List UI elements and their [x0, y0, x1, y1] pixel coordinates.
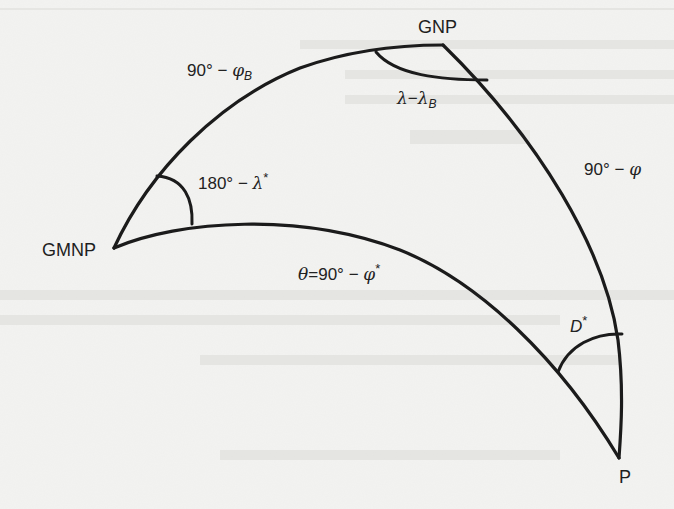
angle-label-gmnp: 180° − λ*: [198, 175, 268, 192]
angle-arc-gnp: [376, 52, 487, 80]
angle-arc-gmnp: [157, 176, 192, 224]
edge-label-op: −: [614, 160, 624, 179]
edge-label-sub: B: [244, 69, 252, 83]
diagram-canvas: GNP GMNP P 90° − φB 90° − φ θ=90° − φ* λ…: [0, 0, 674, 509]
edge-gnp-p: [443, 45, 622, 458]
angle-label-gnp: λ−λB: [397, 90, 437, 107]
lambda-symbol: λ: [397, 88, 408, 108]
angle-label-sup: *: [582, 313, 587, 328]
lambda-symbol: λ: [418, 88, 429, 108]
vertex-label-gnp: GNP: [418, 18, 457, 36]
edge-label-op: −: [349, 265, 359, 284]
angle-label-op: −: [238, 174, 248, 193]
phi-symbol: φ: [232, 60, 244, 80]
phi-symbol: φ: [363, 264, 375, 284]
edge-label-op: −: [217, 61, 227, 80]
phi-symbol: φ: [629, 159, 641, 179]
vertex-label-gmnp: GMNP: [42, 241, 96, 259]
edge-gmnp-gnp: [114, 45, 443, 248]
declination-symbol: D: [570, 317, 582, 336]
edge-label-eq: =: [308, 265, 318, 284]
angle-label-p: D*: [570, 318, 587, 335]
edge-label-value: 90°: [318, 265, 344, 284]
edge-label-gmnp-p: θ=90° − φ*: [298, 266, 380, 283]
edge-gmnp-p: [114, 224, 619, 458]
angle-arc-p: [558, 334, 622, 372]
angle-label-op: −: [408, 89, 418, 108]
theta-symbol: θ: [298, 264, 308, 284]
angle-label-sub: B: [429, 97, 437, 111]
edge-label-value: 90°: [584, 160, 610, 179]
lambda-symbol: λ: [253, 173, 264, 193]
angle-label-value: 180°: [198, 174, 233, 193]
angle-label-sup: *: [263, 170, 268, 185]
vertex-label-p: P: [619, 468, 631, 486]
edge-label-gnp-p: 90° − φ: [584, 161, 641, 178]
edge-label-sup: *: [375, 261, 380, 276]
edge-label-value: 90°: [187, 61, 213, 80]
spherical-triangle: [0, 0, 674, 509]
edge-label-gmnp-gnp: 90° − φB: [187, 62, 252, 79]
